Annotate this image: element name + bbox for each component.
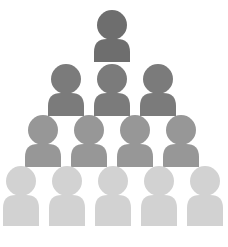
graphic-title: People Pyramid Hierarchy: [0, 0, 1, 1]
person-icon: [25, 115, 61, 167]
person-body: [140, 93, 176, 116]
person-body: [48, 93, 84, 116]
person-body: [71, 144, 107, 167]
person-head: [144, 166, 174, 196]
person-body: [141, 195, 177, 226]
person-icon: [94, 64, 130, 116]
person-icon: [117, 115, 153, 167]
person-head: [28, 115, 58, 145]
person-icon: [95, 166, 131, 226]
person-body: [3, 195, 39, 226]
people-pyramid-graphic: People Pyramid Hierarchy: [0, 0, 228, 247]
person-icon: [48, 64, 84, 116]
person-icon: [141, 166, 177, 226]
person-icon: [163, 115, 199, 167]
person-head: [143, 64, 173, 94]
person-icon: [94, 10, 130, 62]
person-body: [187, 195, 223, 226]
person-icon: [71, 115, 107, 167]
person-body: [95, 195, 131, 226]
person-body: [94, 39, 130, 62]
person-head: [52, 166, 82, 196]
person-icon: [3, 166, 39, 226]
person-head: [6, 166, 36, 196]
person-head: [97, 64, 127, 94]
person-head: [74, 115, 104, 145]
person-head: [51, 64, 81, 94]
person-head: [97, 10, 127, 40]
person-body: [49, 195, 85, 226]
person-head: [120, 115, 150, 145]
person-icon: [187, 166, 223, 226]
person-head: [190, 166, 220, 196]
person-icon: [49, 166, 85, 226]
person-head: [98, 166, 128, 196]
person-body: [94, 93, 130, 116]
person-body: [25, 144, 61, 167]
person-head: [166, 115, 196, 145]
person-body: [117, 144, 153, 167]
person-icon: [140, 64, 176, 116]
person-body: [163, 144, 199, 167]
